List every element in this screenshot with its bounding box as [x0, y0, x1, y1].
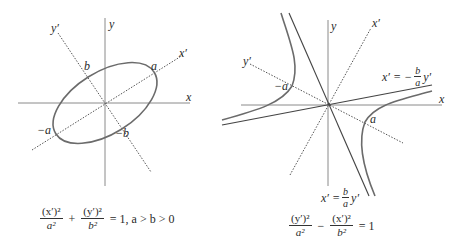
eq-rhs: = 1	[359, 220, 375, 232]
asymptote-upper-rhs: y′	[423, 71, 431, 83]
point-a-label: a	[370, 113, 376, 125]
eq-plus: +	[69, 213, 76, 225]
eq-term1-numerator: (y′)²	[289, 213, 312, 226]
x-axis-label: x	[439, 93, 444, 105]
y-axis-label: y	[331, 20, 336, 32]
asymptote-lower-label: x′ = ba y′	[321, 187, 359, 209]
asymptote-lower-rhs: y′	[351, 192, 359, 204]
hyperbola-branch-right	[362, 91, 432, 196]
asymptote-upper-den: a	[415, 77, 420, 88]
eq-minus: −	[318, 220, 325, 232]
asymptote-lower-lhs: x′ =	[321, 192, 340, 204]
asymptote-lower-den: a	[343, 198, 348, 209]
hyperbola-diagram	[222, 13, 442, 196]
eq-term1-denominator: a²	[296, 226, 305, 238]
y-prime-axis-label: y′	[243, 55, 251, 67]
ellipse-equation: (x′)²a² + (y′)²b² = 1, a > b > 0	[38, 206, 178, 231]
asymptote-upper-num: b	[414, 66, 421, 77]
asymptote-upper-label: x′ = − ba y′	[382, 66, 431, 88]
point-neg-b-label: −b	[115, 127, 129, 139]
eq-term2-numerator: (y′)²	[81, 206, 104, 219]
eq-term1-numerator: (x′)²	[40, 206, 63, 219]
eq-rhs: = 1, a > b > 0	[110, 213, 175, 225]
y-axis-label: y	[109, 18, 114, 30]
eq-term2-denominator: b²	[337, 226, 346, 238]
point-a-label: a	[151, 60, 157, 72]
point-b-label: b	[84, 60, 90, 72]
asymptote-upper-lhs: x′ = −	[382, 71, 412, 83]
y-prime-axis-label: y′	[51, 22, 59, 34]
point-neg-a-label: −a	[274, 80, 288, 92]
hyperbola-branch-left	[222, 13, 295, 120]
x-axis-label: x	[186, 91, 191, 103]
x-prime-axis-label: x′	[372, 17, 380, 29]
eq-term2-denominator: b²	[88, 219, 97, 231]
hyperbola-equation: (y′)²a² − (x′)²b² = 1	[287, 213, 379, 238]
ellipse-diagram	[18, 18, 190, 186]
eq-term2-numerator: (x′)²	[330, 213, 353, 226]
x-prime-axis-label: x′	[179, 47, 187, 59]
eq-term1-denominator: a²	[47, 219, 56, 231]
x-prime-axis	[290, 28, 371, 175]
asymptote-lower-num: b	[342, 187, 349, 198]
point-neg-a-label: −a	[37, 124, 51, 136]
